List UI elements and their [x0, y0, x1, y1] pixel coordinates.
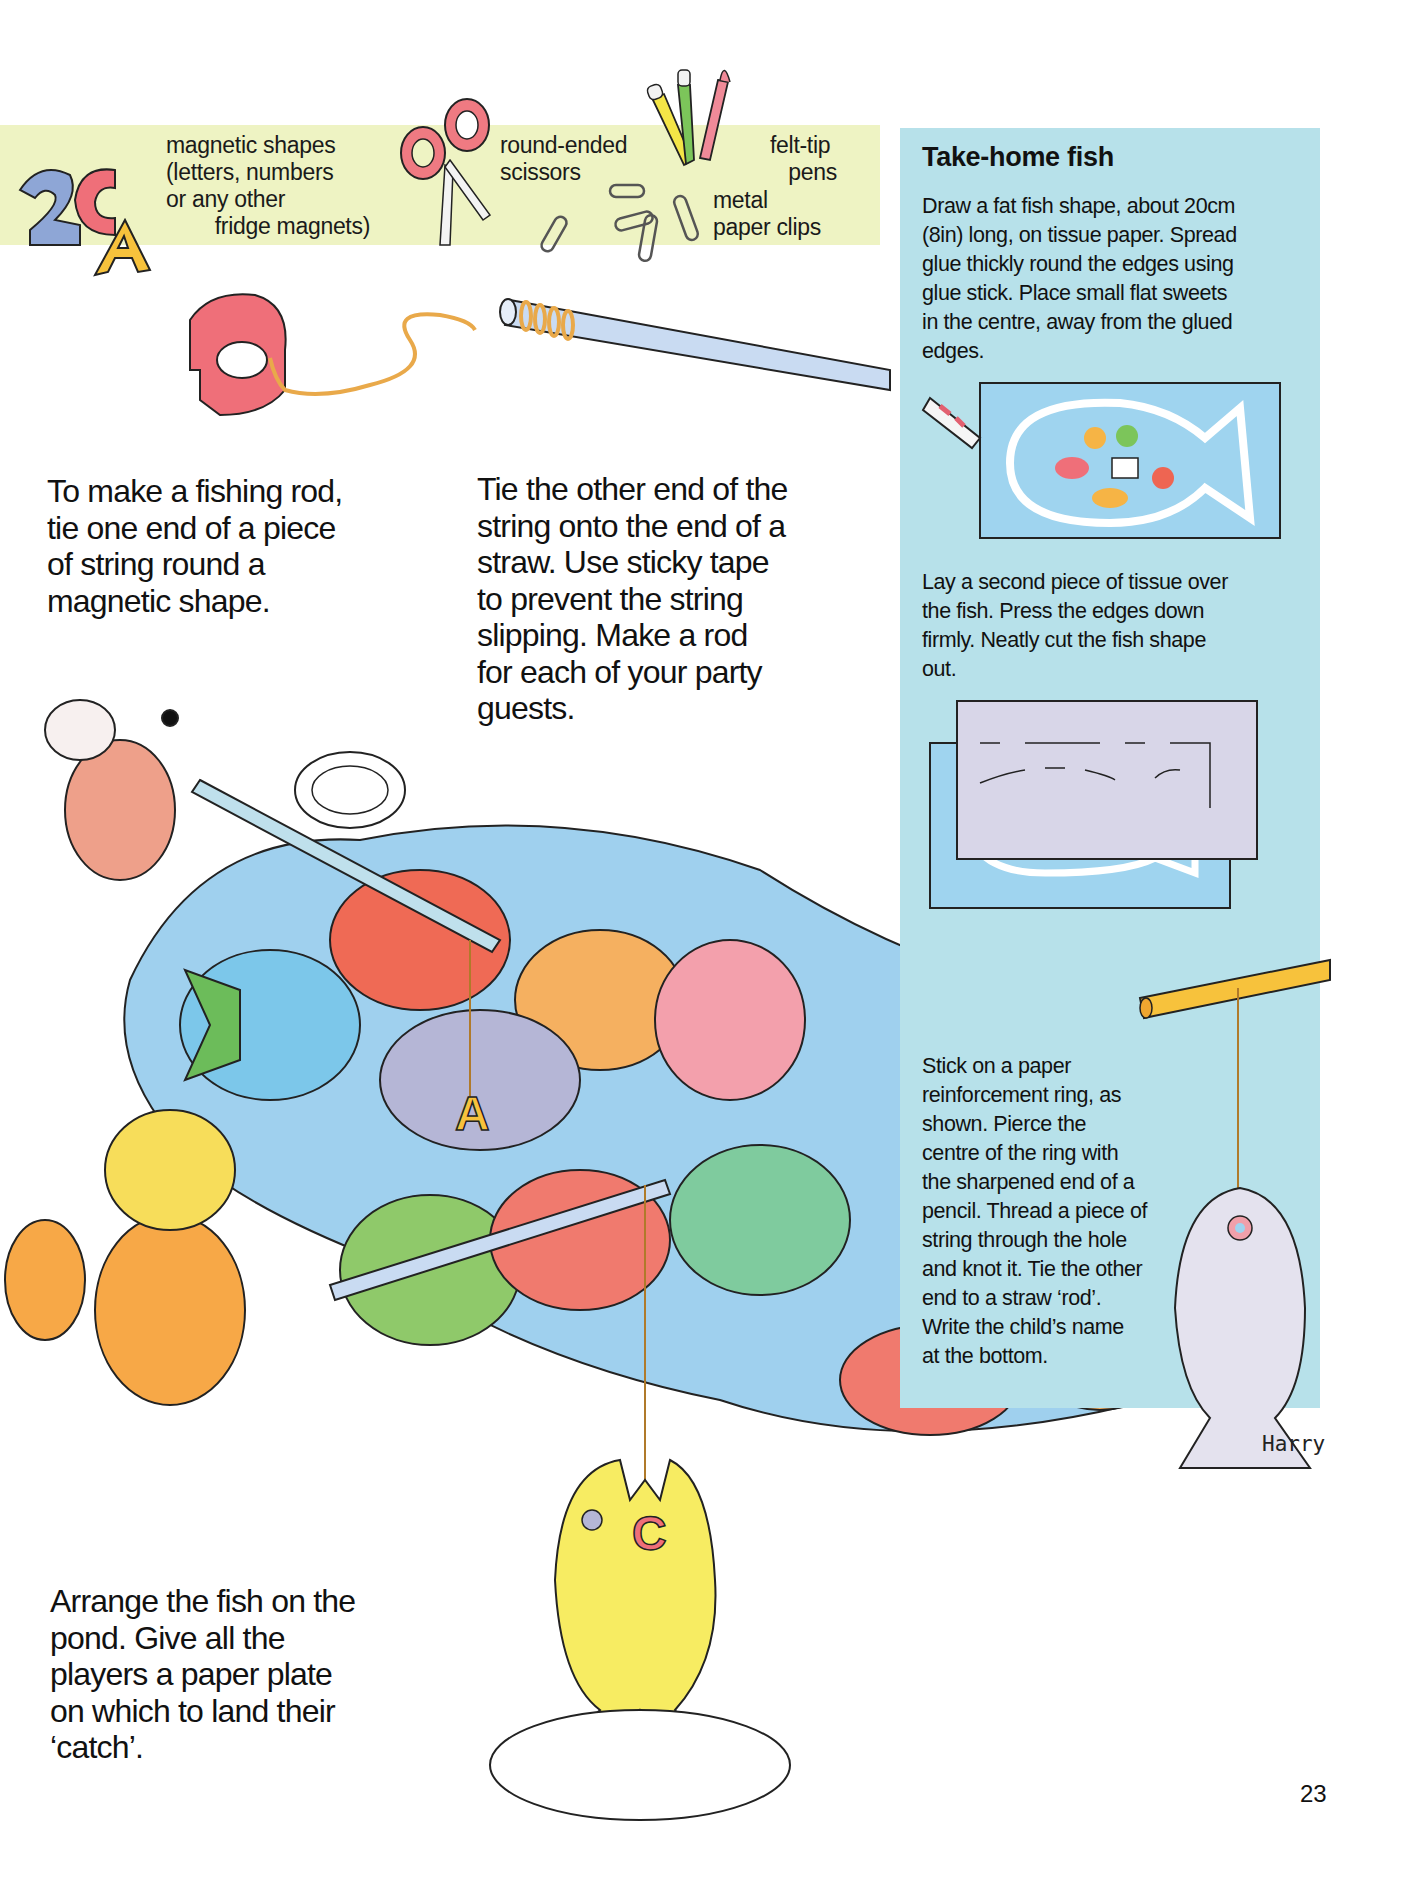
panel-step-1-text: Draw a fat fish shape, about 20cm (8in) … [922, 192, 1237, 366]
svg-text:C: C [632, 1507, 667, 1560]
name-tag-fish-illustration [1140, 928, 1330, 1488]
mouse-character [45, 700, 178, 880]
step-1-text: To make a fishing rod, tie one end of a … [47, 473, 342, 619]
panel-step-2-text: Lay a second piece of tissue over the fi… [922, 568, 1228, 684]
paper-clips-icon [540, 185, 710, 275]
step-3-text: Arrange the fish on the pond. Give all t… [50, 1583, 355, 1766]
svg-text:A: A [455, 1087, 490, 1140]
take-home-fish-panel: Take-home fish Draw a fat fish shape, ab… [900, 128, 1320, 1408]
paper-clips-label: metal paper clips [713, 187, 821, 241]
glue-fish-illustration [920, 378, 1290, 548]
cat-character [5, 1110, 245, 1405]
scissors-icon [395, 95, 505, 260]
magnets-label: magnetic shapes (letters, numbers or any… [166, 132, 370, 240]
tissue-overlay-illustration [925, 698, 1265, 913]
magnet-string-straw-illustration [170, 290, 910, 440]
page-number: 23 [1300, 1780, 1327, 1808]
felt-tip-pens-label: felt-tip pens [770, 132, 837, 186]
magnet-letters-icon [10, 150, 170, 290]
felt-tip-pens-icon [640, 60, 780, 180]
name-tag-label: Harry [1262, 1432, 1325, 1456]
panel-title: Take-home fish [922, 142, 1114, 173]
panel-step-3-text: Stick on a paper reinforcement ring, as … [922, 1052, 1147, 1371]
step-2-text: Tie the other end of the string onto the… [477, 471, 788, 727]
scissors-label: round-ended scissors [500, 132, 627, 186]
